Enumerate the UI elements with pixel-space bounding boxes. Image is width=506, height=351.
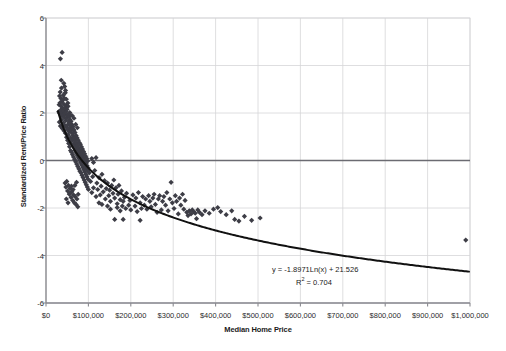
x-tick-label: $400,000 (200, 311, 231, 320)
trendline-equation-label: y = -1.8971Ln(x) + 21.526 (272, 265, 358, 274)
x-tick-label: $0 (42, 311, 50, 320)
r-squared-value: = 0.704 (304, 278, 331, 287)
x-tick-label: $200,000 (115, 311, 146, 320)
y-tick-label: 6 (22, 14, 44, 23)
r-squared-label: R2 = 0.704 (296, 276, 332, 287)
x-tick-label: $300,000 (158, 311, 189, 320)
x-tick-label: $100,000 (73, 311, 104, 320)
x-tick-label: $600,000 (285, 311, 316, 320)
x-tick-label: $800,000 (370, 311, 401, 320)
chart-background (0, 0, 506, 351)
scatter-chart-figure: 6420-2-4-6 $0$100,000$200,000$300,000$40… (0, 0, 506, 351)
x-axis-title: Median Home Price (46, 325, 470, 334)
x-tick-label: $500,000 (242, 311, 273, 320)
x-tick-label: $900,000 (412, 311, 443, 320)
plot-canvas (0, 0, 506, 351)
y-tick-label: -6 (22, 299, 44, 308)
x-tick-label: $700,000 (327, 311, 358, 320)
y-axis-title: Standardized Rent/Price Ratio (19, 57, 28, 257)
x-tick-label: $1,000,000 (451, 311, 489, 320)
